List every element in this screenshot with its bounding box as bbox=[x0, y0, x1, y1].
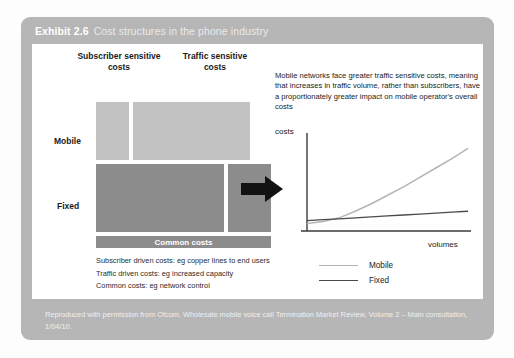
matrix-cell-mobile-traffic bbox=[133, 102, 250, 160]
costs-vs-volumes-chart bbox=[275, 127, 475, 249]
matrix-cell-mobile-subscriber bbox=[96, 102, 129, 160]
common-costs-label: Common costs bbox=[155, 238, 213, 247]
row-label-fixed: Fixed bbox=[57, 201, 79, 211]
common-costs-bar: Common costs bbox=[96, 236, 271, 248]
chart-x-axis-label: volumes bbox=[428, 240, 458, 249]
exhibit-header: Exhibit 2.6 Cost structures in the phone… bbox=[21, 17, 494, 44]
exhibit-card: Exhibit 2.6 Cost structures in the phone… bbox=[21, 17, 494, 340]
column-header-traffic-label: Traffic sensitive costs bbox=[183, 51, 247, 72]
legend-item-mobile: Mobile bbox=[319, 258, 449, 273]
explanatory-text: Mobile networks face greater traffic sen… bbox=[275, 71, 480, 113]
exhibit-title: Cost structures in the phone industry bbox=[94, 25, 269, 37]
note-subscriber: Subscriber driven costs: eg copper lines… bbox=[96, 255, 311, 268]
exhibit-panel: Subscriber sensitive costs Traffic sensi… bbox=[32, 44, 483, 299]
legend-label-fixed: Fixed bbox=[369, 276, 389, 285]
matrix-notes: Subscriber driven costs: eg copper lines… bbox=[96, 255, 311, 293]
chart-y-axis-label: costs bbox=[275, 127, 294, 136]
row-label-mobile: Mobile bbox=[54, 136, 81, 146]
source-note: Reproduced with permission from Ofcom. W… bbox=[45, 309, 475, 333]
legend-label-mobile: Mobile bbox=[369, 261, 393, 270]
legend-item-fixed: Fixed bbox=[319, 273, 449, 288]
column-header-traffic: Traffic sensitive costs bbox=[172, 51, 258, 73]
screenshot-root: Exhibit 2.6 Cost structures in the phone… bbox=[0, 0, 514, 358]
column-header-subscriber: Subscriber sensitive costs bbox=[67, 51, 171, 73]
legend-swatch-mobile bbox=[319, 265, 358, 266]
note-common: Common costs: eg network control bbox=[96, 280, 311, 293]
column-header-subscriber-label: Subscriber sensitive costs bbox=[77, 51, 160, 72]
matrix-cell-fixed-subscriber bbox=[96, 164, 224, 232]
note-traffic: Traffic driven costs: eg increased capac… bbox=[96, 268, 311, 281]
legend-swatch-fixed bbox=[319, 280, 358, 281]
chart-series-fixed bbox=[307, 211, 468, 220]
chart-legend: Mobile Fixed bbox=[319, 258, 449, 288]
exhibit-number: Exhibit 2.6 bbox=[35, 25, 89, 37]
